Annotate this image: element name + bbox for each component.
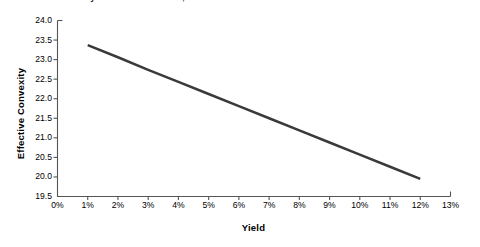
- chart-figure: A. Effective Convexity-Yield Curve for a…: [0, 0, 480, 247]
- x-axis-tick-labels: 0%1%2%3%4%5%6%7%8%9%10%11%12%13%: [0, 0, 480, 247]
- x-tick-label: 13%: [431, 200, 471, 210]
